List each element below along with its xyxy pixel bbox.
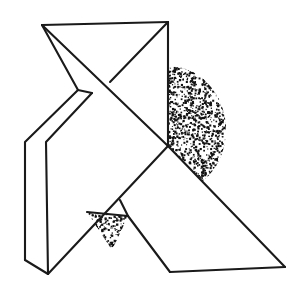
figure-canvas	[0, 0, 303, 289]
geometric-line-drawing	[0, 0, 303, 289]
